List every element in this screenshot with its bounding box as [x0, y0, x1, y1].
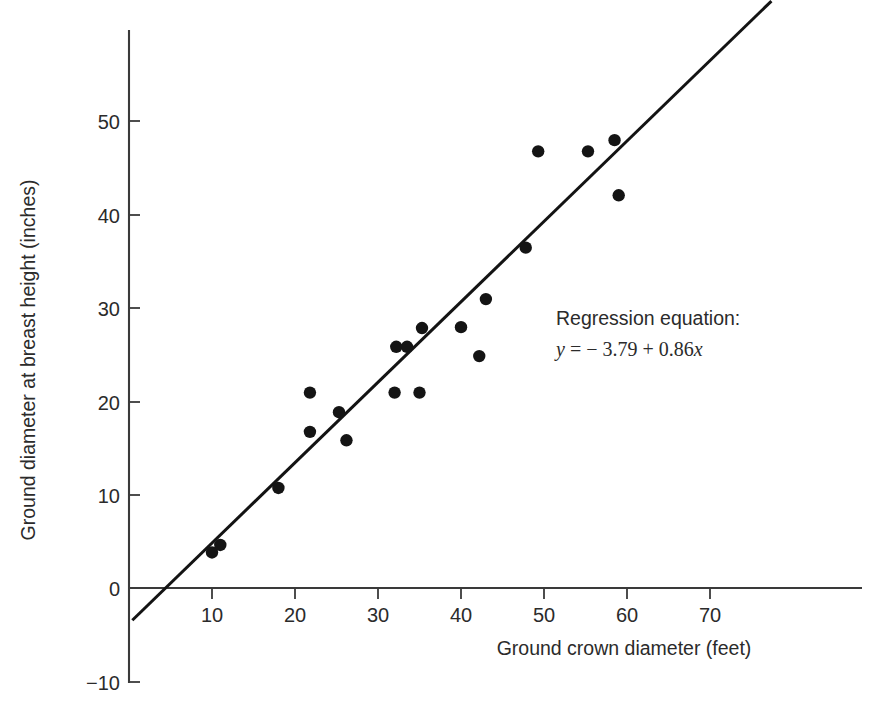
- scatter-point: [608, 134, 620, 146]
- y-tick-label-50: 50: [98, 111, 120, 133]
- scatter-point: [582, 145, 594, 157]
- y-axis-tick-labels: 50 40 30 20 10 0 −10: [86, 111, 120, 694]
- y-axis-title: Ground diameter at breast height (inches…: [17, 180, 39, 541]
- scatter-point: [520, 241, 532, 253]
- x-tick-label-40: 40: [450, 604, 472, 626]
- scatter-point: [413, 386, 425, 398]
- scatter-plot: 50 40 30 20 10 0 −10 10 20 30 40 50 60 7…: [0, 0, 880, 721]
- regression-equation-annotation: Regression equation: y = − 3.79 + 0.86x: [554, 307, 740, 361]
- x-axis-title: Ground crown diameter (feet): [497, 637, 752, 659]
- x-tick-label-20: 20: [284, 604, 306, 626]
- scatter-point: [613, 189, 625, 201]
- scatter-point: [304, 386, 316, 398]
- y-axis-ticks: [129, 121, 140, 682]
- scatter-point: [455, 321, 467, 333]
- scatter-point: [333, 406, 345, 418]
- x-tick-label-60: 60: [616, 604, 638, 626]
- regression-equation-heading: Regression equation:: [556, 307, 740, 329]
- x-axis-tick-labels: 10 20 30 40 50 60 70: [201, 604, 721, 626]
- scatter-point: [214, 539, 226, 551]
- x-tick-label-70: 70: [699, 604, 721, 626]
- scatter-point: [304, 426, 316, 438]
- scatter-point: [388, 386, 400, 398]
- y-tick-label-30: 30: [98, 298, 120, 320]
- x-tick-label-30: 30: [367, 604, 389, 626]
- y-tick-label-40: 40: [98, 205, 120, 227]
- y-tick-label-0: 0: [109, 578, 120, 600]
- scatter-point: [272, 482, 284, 494]
- equation-variable-y: y: [554, 338, 565, 361]
- scatter-point: [480, 293, 492, 305]
- equation-body: = − 3.79 + 0.86: [565, 338, 694, 360]
- scatter-point: [340, 434, 352, 446]
- figure-container: 50 40 30 20 10 0 −10 10 20 30 40 50 60 7…: [0, 0, 880, 721]
- scatter-point: [390, 341, 402, 353]
- scatter-point: [473, 350, 485, 362]
- y-tick-label-10: 10: [98, 485, 120, 507]
- equation-variable-x: x: [693, 338, 703, 360]
- x-tick-label-50: 50: [533, 604, 555, 626]
- x-axis-ticks: [212, 588, 710, 599]
- scatter-point: [401, 341, 413, 353]
- regression-equation-formula: y = − 3.79 + 0.86x: [554, 338, 703, 361]
- x-tick-label-10: 10: [201, 604, 223, 626]
- scatter-point: [416, 322, 428, 334]
- y-tick-label-20: 20: [98, 392, 120, 414]
- y-tick-label-minus10: −10: [86, 672, 120, 694]
- scatter-point: [532, 145, 544, 157]
